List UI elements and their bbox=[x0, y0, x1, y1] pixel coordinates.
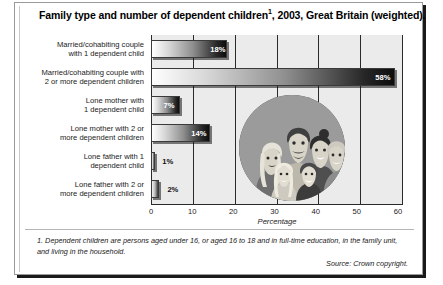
figure-panel: Family type and number of dependent chil… bbox=[14, 2, 423, 275]
category-label-line: Married/cohabiting couple with bbox=[36, 68, 144, 77]
bar-value-label: 14% bbox=[191, 129, 206, 138]
x-tick-40: 40 bbox=[311, 207, 319, 216]
category-label: Lone mother with 2 or more dependent chi… bbox=[36, 124, 144, 143]
bar-track: 7% bbox=[151, 91, 403, 119]
category-label-line: Lone mother with bbox=[36, 96, 144, 105]
bar-row: Lone mother with 1 dependent child 7% bbox=[36, 91, 403, 119]
bar-track: 18% bbox=[151, 35, 403, 63]
x-tick-20: 20 bbox=[229, 207, 237, 216]
bar-lone-father-1-child bbox=[151, 152, 155, 170]
bar-value-label: 18% bbox=[210, 45, 225, 54]
x-tick-30: 30 bbox=[270, 207, 278, 216]
bar-row: Married/cohabiting couple with 2 or more… bbox=[36, 63, 403, 91]
bar-value-label: 2% bbox=[167, 185, 178, 194]
category-label-line: Lone mother with 2 or bbox=[36, 124, 144, 133]
category-label: Married/cohabiting couple with 2 or more… bbox=[36, 68, 144, 87]
footnote-divider bbox=[25, 229, 414, 230]
category-label-line: Lone father with 2 or bbox=[36, 180, 144, 189]
bar-married-2plus-children bbox=[151, 68, 395, 86]
category-label: Lone mother with 1 dependent child bbox=[36, 96, 144, 115]
category-label-line: with 1 dependent child bbox=[36, 49, 144, 58]
x-axis-label: Percentage bbox=[151, 217, 403, 226]
chart-title: Family type and number of dependent chil… bbox=[39, 8, 414, 21]
category-label-line: dependent child bbox=[36, 161, 144, 170]
category-label: Lone father with 2 or more dependent chi… bbox=[36, 180, 144, 199]
bar-track: 14% bbox=[151, 119, 403, 147]
x-tick-60: 60 bbox=[394, 207, 402, 216]
source-text: Source: Crown copyright. bbox=[326, 259, 408, 268]
bar-value-label: 58% bbox=[375, 73, 390, 82]
chart-title-rest: , 2003, Great Britain (weighted). bbox=[272, 9, 426, 21]
x-tick-0: 0 bbox=[149, 207, 153, 216]
bar-chart: Married/cohabiting couple with 1 depende… bbox=[36, 29, 408, 215]
x-tick-10: 10 bbox=[188, 207, 196, 216]
bar-row: Lone mother with 2 or more dependent chi… bbox=[36, 119, 403, 147]
bar-value-label: 7% bbox=[164, 101, 175, 110]
bar-value-label: 1% bbox=[162, 157, 173, 166]
footnote-text: 1. Dependent children are persons aged u… bbox=[37, 235, 408, 257]
bar-track: 58% bbox=[151, 63, 403, 91]
category-label-line: more dependent children bbox=[36, 189, 144, 198]
category-label-line: 2 or more dependent children bbox=[36, 77, 144, 86]
category-label-line: Lone father with 1 bbox=[36, 152, 144, 161]
bar-track: 1% bbox=[151, 147, 403, 175]
chart-title-main: Family type and number of dependent chil… bbox=[39, 9, 268, 21]
category-label: Married/cohabiting couple with 1 depende… bbox=[36, 40, 144, 59]
x-axis-line bbox=[151, 204, 403, 205]
category-label-line: Married/cohabiting couple bbox=[36, 40, 144, 49]
bar-track: 2% bbox=[151, 175, 403, 203]
category-label-line: more dependent children bbox=[36, 133, 144, 142]
bar-row: Lone father with 1 dependent child 1% bbox=[36, 147, 403, 175]
category-label: Lone father with 1 dependent child bbox=[36, 152, 144, 171]
category-label-line: 1 dependent child bbox=[36, 105, 144, 114]
bar-row: Lone father with 2 or more dependent chi… bbox=[36, 175, 403, 203]
x-tick-50: 50 bbox=[353, 207, 361, 216]
bar-row: Married/cohabiting couple with 1 depende… bbox=[36, 35, 403, 63]
bar-lone-father-2plus-children bbox=[151, 180, 159, 198]
